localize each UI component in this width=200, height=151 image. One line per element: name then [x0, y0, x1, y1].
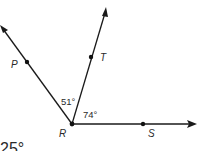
angle-diagram — [0, 0, 200, 151]
ray-rp — [3, 29, 72, 124]
point-s — [141, 122, 145, 126]
point-r — [70, 122, 75, 127]
point-t — [89, 55, 93, 59]
label-r: R — [59, 129, 66, 139]
point-p — [25, 60, 29, 64]
ray-rt — [72, 13, 105, 124]
label-t: T — [100, 53, 106, 63]
angle-prt-label: 51° — [61, 97, 75, 107]
label-p: P — [11, 60, 18, 70]
answer-text: 25° — [0, 141, 24, 151]
label-s: S — [148, 129, 155, 139]
arrowhead-p-icon — [0, 25, 8, 33]
angle-trs-label: 74° — [83, 110, 97, 120]
arrowhead-t-icon — [102, 7, 108, 17]
